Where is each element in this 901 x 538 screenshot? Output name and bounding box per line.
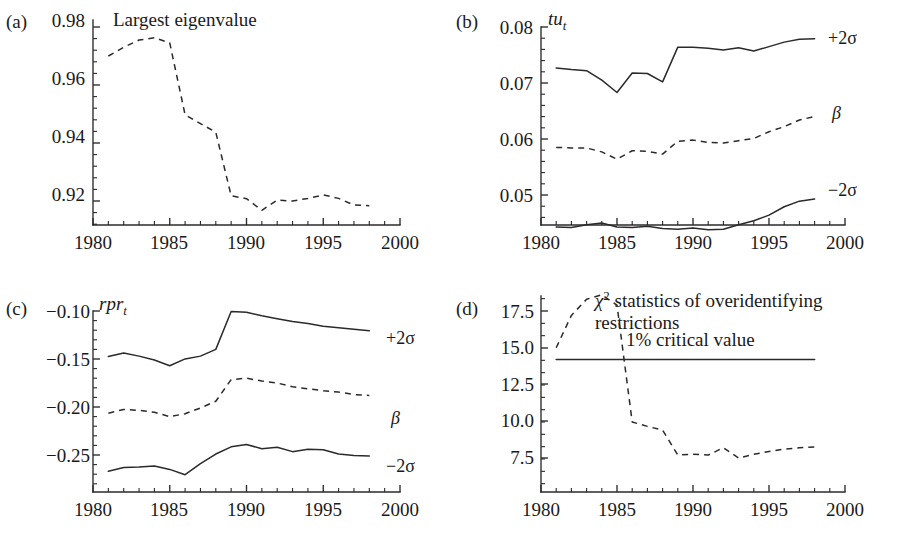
panel-a-ytick-3: 0.92 <box>52 184 85 205</box>
panel-c-ytick-2: −0.20 <box>46 397 90 418</box>
panel-d-xtick-0: 1980 <box>522 499 560 520</box>
panel-c-x-tick-labels: 1980 1985 1990 1995 2000 <box>74 499 419 520</box>
panel-d-critical-value-label: 1% critical value <box>626 329 755 350</box>
panel-d-x-tick-labels: 1980 1985 1990 1995 2000 <box>522 499 864 520</box>
panel-a-x-tick-labels: 1980 1985 1990 1995 2000 <box>74 232 419 253</box>
panel-b-label-upper: +2σ <box>828 28 857 48</box>
panel-c-ytick-3: −0.25 <box>46 445 90 466</box>
panel-c-series-upper-band <box>108 311 369 365</box>
panel-a-letter: (a) <box>6 11 27 33</box>
panel-c-xtick-2: 1990 <box>227 499 265 520</box>
panel-d-xtick-1: 1985 <box>598 499 636 520</box>
panel-b-xtick-3: 1995 <box>750 232 788 253</box>
panel-d-xtick-3: 1995 <box>750 499 788 520</box>
panel-a-y-tick-labels: 0.98 0.96 0.94 0.92 <box>52 10 86 205</box>
panel-b-y-ticks <box>541 27 548 217</box>
panel-b-chart: (b) tut 0.08 0.07 0.06 0.05 1980 1985 19… <box>450 0 901 270</box>
panel-a-title: Largest eigenvalue <box>113 9 257 30</box>
panel-a-xtick-0: 1980 <box>74 232 112 253</box>
panel-a-chart: (a) Largest eigenvalue 0.98 0.96 0.94 0.… <box>0 0 450 270</box>
panel-a-xtick-3: 1995 <box>304 232 342 253</box>
panel-b-xtick-1: 1985 <box>598 232 636 253</box>
panel-c-label-beta: β <box>390 408 400 428</box>
panel-d-ytick-4: 7.5 <box>510 447 534 468</box>
panel-c-series-beta <box>108 378 369 416</box>
panel-d-x-ticks <box>541 485 845 492</box>
panel-a-ytick-1: 0.96 <box>52 68 85 89</box>
panel-b-xtick-4: 2000 <box>826 232 864 253</box>
panel-d-ytick-0: 17.5 <box>501 301 534 322</box>
panel-b-y-tick-labels: 0.08 0.07 0.06 0.05 <box>500 17 533 206</box>
panel-d-y-ticks <box>541 299 548 484</box>
panel-c-label-upper: +2σ <box>386 328 415 348</box>
panel-d-title-line1: χ2 statistics of overidentifying <box>593 288 823 311</box>
panel-c-ytick-0: −0.10 <box>46 301 90 322</box>
panel-c-chart: (c) rprt −0.10 −0.15 −0.20 −0.25 1980 19… <box>0 270 450 538</box>
panel-b-title: tut <box>548 8 567 33</box>
panel-d-ytick-1: 15.0 <box>501 337 534 358</box>
panel-c-x-ticks <box>93 485 400 492</box>
panel-c: (c) rprt −0.10 −0.15 −0.20 −0.25 1980 19… <box>0 270 450 538</box>
panel-b-xtick-0: 1980 <box>522 232 560 253</box>
panel-d-y-tick-labels: 17.5 15.0 12.5 10.0 7.5 <box>501 301 534 468</box>
panel-a: (a) Largest eigenvalue 0.98 0.96 0.94 0.… <box>0 0 450 270</box>
panel-a-xtick-4: 2000 <box>381 232 419 253</box>
panel-c-xtick-3: 1995 <box>304 499 342 520</box>
panel-b-series-beta <box>556 117 814 160</box>
panel-b-letter: (b) <box>456 11 478 33</box>
panel-d-ytick-2: 12.5 <box>501 374 534 395</box>
panel-b-ytick-3: 0.05 <box>500 185 533 206</box>
panel-a-xtick-2: 1990 <box>227 232 265 253</box>
panel-c-xtick-4: 2000 <box>381 499 419 520</box>
panel-d-letter: (d) <box>456 298 478 320</box>
panel-b-ytick-1: 0.07 <box>500 73 533 94</box>
panel-b-xtick-2: 1990 <box>674 232 712 253</box>
panel-a-ytick-2: 0.94 <box>52 126 86 147</box>
panel-b-label-lower: −2σ <box>828 180 857 200</box>
panel-b-ytick-2: 0.06 <box>500 129 533 150</box>
panel-a-x-ticks <box>93 218 400 225</box>
panel-b-series-upper-band <box>556 39 814 93</box>
panel-a-xtick-1: 1985 <box>150 232 188 253</box>
panel-c-y-ticks <box>93 311 100 484</box>
panel-c-title: rprt <box>99 293 127 318</box>
panel-c-xtick-1: 1985 <box>150 499 188 520</box>
panel-d-xtick-2: 1990 <box>674 499 712 520</box>
panel-d-ytick-3: 10.0 <box>501 410 534 431</box>
panel-a-ytick-0: 0.98 <box>52 10 85 31</box>
panel-d-xtick-4: 2000 <box>826 499 864 520</box>
panel-b-ytick-0: 0.08 <box>500 17 533 38</box>
panel-b: (b) tut 0.08 0.07 0.06 0.05 1980 1985 19… <box>450 0 901 270</box>
panel-c-y-tick-labels: −0.10 −0.15 −0.20 −0.25 <box>46 301 90 466</box>
panel-a-series-largest-eigenvalue <box>108 38 369 211</box>
panel-d-chart: (d) χ2 statistics of overidentifying res… <box>450 270 901 538</box>
panel-b-label-beta: β <box>831 103 841 123</box>
panel-c-ytick-1: −0.15 <box>46 349 90 370</box>
figure-panel-grid: (a) Largest eigenvalue 0.98 0.96 0.94 0.… <box>0 0 901 538</box>
panel-a-y-ticks <box>93 27 100 224</box>
panel-b-x-tick-labels: 1980 1985 1990 1995 2000 <box>522 232 864 253</box>
panel-c-series-lower-band <box>108 444 369 474</box>
panel-c-xtick-0: 1980 <box>74 499 112 520</box>
panel-d: (d) χ2 statistics of overidentifying res… <box>450 270 901 538</box>
panel-c-label-lower: −2σ <box>386 456 415 476</box>
panel-c-letter: (c) <box>6 298 27 320</box>
